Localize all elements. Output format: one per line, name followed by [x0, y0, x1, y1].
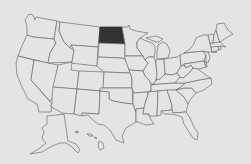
- state-alaska: [30, 114, 80, 154]
- us-map-svg: [0, 0, 251, 164]
- state-new-mexico: [74, 89, 100, 116]
- state-maine: [216, 23, 233, 42]
- state-florida: [161, 110, 198, 140]
- state-south-dakota: [98, 43, 125, 59]
- state-washington: [25, 14, 57, 39]
- state-wyoming: [70, 45, 98, 66]
- state-north-dakota: [99, 27, 125, 44]
- us-map: [0, 0, 251, 164]
- state-hawaii: [75, 131, 104, 150]
- state-kansas: [103, 72, 132, 88]
- state-arizona: [50, 87, 77, 114]
